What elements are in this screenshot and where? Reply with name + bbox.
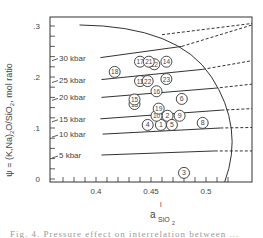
data-point: 18 xyxy=(109,66,120,77)
isobar-label: 25 kbar xyxy=(59,76,86,85)
data-point: 16 xyxy=(151,86,162,97)
data-point: 6 xyxy=(176,93,187,104)
svg-text:21: 21 xyxy=(145,58,153,65)
y-tick-label: .3 xyxy=(33,22,40,31)
svg-text:6: 6 xyxy=(180,95,184,102)
data-point: 23 xyxy=(161,74,172,85)
svg-text:18: 18 xyxy=(111,68,119,75)
y-tick-label: .1 xyxy=(33,124,40,133)
data-point: 19 xyxy=(153,103,164,114)
axis-labels: ψ = (K,Na)2O/SiO2, mol ratio a l SiO 2 xyxy=(4,63,175,226)
data-point: 21 xyxy=(143,56,154,67)
svg-text:19: 19 xyxy=(155,105,163,112)
svg-text:8: 8 xyxy=(201,119,205,126)
chart: 0.40.450.50.1.2.3 5 kbar10 kbar15 kbar20… xyxy=(0,0,263,238)
svg-text:14: 14 xyxy=(163,58,171,65)
x-axis-label-sub2: 2 xyxy=(172,220,175,226)
x-axis-label-sup: l xyxy=(160,201,162,208)
svg-text:15: 15 xyxy=(131,96,139,103)
svg-text:1: 1 xyxy=(159,121,163,128)
x-tick-label: 0.45 xyxy=(143,187,159,196)
data-point: 5 xyxy=(166,119,177,130)
data-point: 3 xyxy=(179,167,190,178)
svg-text:23: 23 xyxy=(163,76,171,83)
x-axis-label-sub: SiO xyxy=(158,216,170,223)
data-point: 4 xyxy=(142,119,153,130)
isobar-label: 30 kbar xyxy=(59,54,86,63)
data-point: 15 xyxy=(129,94,140,105)
x-tick-label: 0.5 xyxy=(200,187,212,196)
isobar-label: 10 kbar xyxy=(59,130,86,139)
svg-text:22: 22 xyxy=(144,78,152,85)
isobar-label: 15 kbar xyxy=(59,115,86,124)
data-point: 9 xyxy=(174,110,185,121)
isobar-label: 5 kbar xyxy=(59,151,82,160)
data-point: 22 xyxy=(142,76,153,87)
svg-text:9: 9 xyxy=(178,112,182,119)
svg-text:5: 5 xyxy=(170,121,174,128)
figure-caption: Fig. 4. Pressure effect on interrelation… xyxy=(10,229,239,238)
x-tick-label: 0.4 xyxy=(90,187,102,196)
svg-text:3: 3 xyxy=(182,169,186,176)
y-tick-label: 0 xyxy=(36,175,41,184)
svg-text:2: 2 xyxy=(166,112,170,119)
data-point: 14 xyxy=(161,56,172,67)
data-point: 8 xyxy=(197,117,208,128)
svg-text:16: 16 xyxy=(153,88,161,95)
x-axis-label: a xyxy=(150,209,156,220)
y-tick-label: .2 xyxy=(33,73,40,82)
svg-text:4: 4 xyxy=(146,121,150,128)
isobar-label: 20 kbar xyxy=(59,93,86,102)
y-axis-label: ψ = (K,Na)2O/SiO2, mol ratio xyxy=(4,63,15,176)
